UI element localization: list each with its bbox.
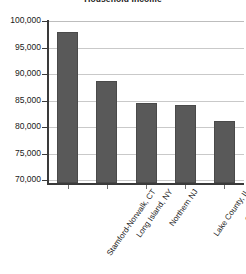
y-axis-tick-label: 70,000	[0, 175, 41, 184]
y-axis-tick	[42, 21, 48, 22]
y-axis-tick	[42, 101, 48, 102]
x-axis-tick	[107, 185, 108, 189]
bar	[214, 121, 235, 183]
bar	[136, 103, 157, 183]
y-axis-tick	[42, 74, 48, 75]
plot-area	[48, 21, 244, 183]
y-axis-tick-label: 75,000	[0, 149, 41, 158]
chart-title: Household Income	[0, 0, 246, 4]
x-axis-category-label: Lake County, IL	[213, 188, 246, 238]
y-axis-tick	[42, 48, 48, 49]
y-axis-line	[47, 20, 49, 185]
x-axis-tick	[68, 185, 69, 189]
x-axis-tick	[224, 185, 225, 189]
bar	[57, 32, 78, 183]
bar	[96, 81, 117, 183]
y-axis-tick	[42, 180, 48, 181]
y-axis-tick	[42, 154, 48, 155]
chart-screenshot: Household Income 70,00075,00080,00085,00…	[0, 0, 246, 274]
x-axis-tick	[185, 185, 186, 189]
x-axis-tick	[146, 185, 147, 189]
y-axis-tick-label: 90,000	[0, 69, 41, 78]
gridline	[48, 21, 244, 22]
bar	[175, 105, 196, 183]
y-axis-tick	[42, 127, 48, 128]
y-axis-tick-label: 80,000	[0, 122, 41, 131]
y-axis-tick-label: 95,000	[0, 43, 41, 52]
y-axis-tick-label: 100,000	[0, 16, 41, 25]
y-axis-tick-label: 85,000	[0, 96, 41, 105]
